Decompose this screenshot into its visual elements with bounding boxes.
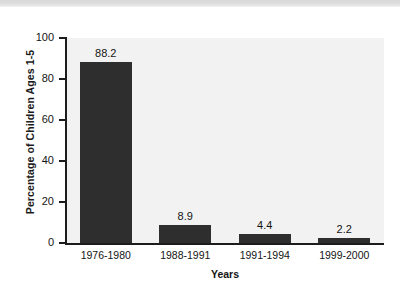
x-axis-tick-label: 1988-1991 [140,249,230,261]
bar-value-label: 4.4 [235,220,295,231]
bar-chart-figure: Percentage of Children Ages 1-5 02040608… [0,0,400,301]
bar [80,62,132,243]
bar [159,225,211,243]
x-axis-tick-label: 1976-1980 [61,249,151,261]
bar-value-label: 2.2 [314,224,374,235]
x-axis-tick-label: 1999-2000 [299,249,389,261]
x-axis-tick-label: 1991-1994 [220,249,310,261]
bars-layer: 88.28.94.42.2 [0,0,400,244]
x-axis-title: Years [66,268,384,280]
bar-value-label: 8.9 [155,211,215,222]
bar [318,238,370,243]
bar [239,234,291,243]
bar-value-label: 88.2 [76,48,136,59]
